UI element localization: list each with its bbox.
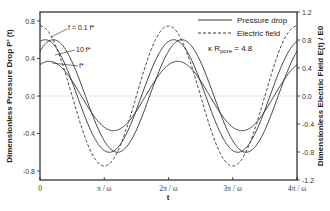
label-0.1f: f = 0.1 f* [68,24,95,31]
x-axis-title: t [167,193,170,202]
legend: Pressure drop Electric field κ Rpore = 4… [198,16,288,54]
svg-text:4π / ω: 4π / ω [288,184,306,193]
x-axis: 0π / ω2π / ω3π / ω4π / ω [38,177,306,193]
svg-text:-0.8: -0.8 [302,149,314,156]
right-y-axis-title: Dimensionless Electric Field E(t) / E0 [316,25,325,166]
svg-text:0.8: 0.8 [302,37,312,44]
svg-text:0.4: 0.4 [302,65,312,72]
label-10f: 10 f* [76,46,91,53]
svg-text:0.4: 0.4 [25,55,35,62]
label-f: f* [79,62,84,69]
svg-text:1.2: 1.2 [302,9,312,16]
svg-text:π / ω: π / ω [97,184,112,193]
svg-text:0.0: 0.0 [25,93,35,100]
svg-text:-0.4: -0.4 [23,130,35,137]
left-y-axis-title: Dimensionless Pressure Drop P' (t) [5,29,14,163]
svg-text:0: 0 [38,184,42,193]
svg-text:-1.2: -1.2 [302,177,314,184]
svg-text:-0.4: -0.4 [302,121,314,128]
svg-text:-0.8: -0.8 [23,168,35,175]
kappa-annotation: κ Rpore = 4.8 [208,44,253,54]
svg-text:3π / ω: 3π / ω [224,184,242,193]
svg-text:0.8: 0.8 [25,18,35,25]
right-y-axis: 1.20.80.40.0-0.4-0.8-1.2 [297,9,314,184]
svg-text:2π / ω: 2π / ω [159,184,177,193]
curve-annotations: f = 0.1 f* 10 f* f* [51,24,95,69]
left-y-axis: 0.80.40.0-0.4-0.8 [23,18,40,175]
chart: 0.80.40.0-0.4-0.8 1.20.80.40.0-0.4-0.8-1… [0,0,330,211]
svg-text:0.0: 0.0 [302,93,312,100]
legend-label-pressure: Pressure drop [237,16,288,25]
legend-label-electric: Electric field [237,29,280,38]
